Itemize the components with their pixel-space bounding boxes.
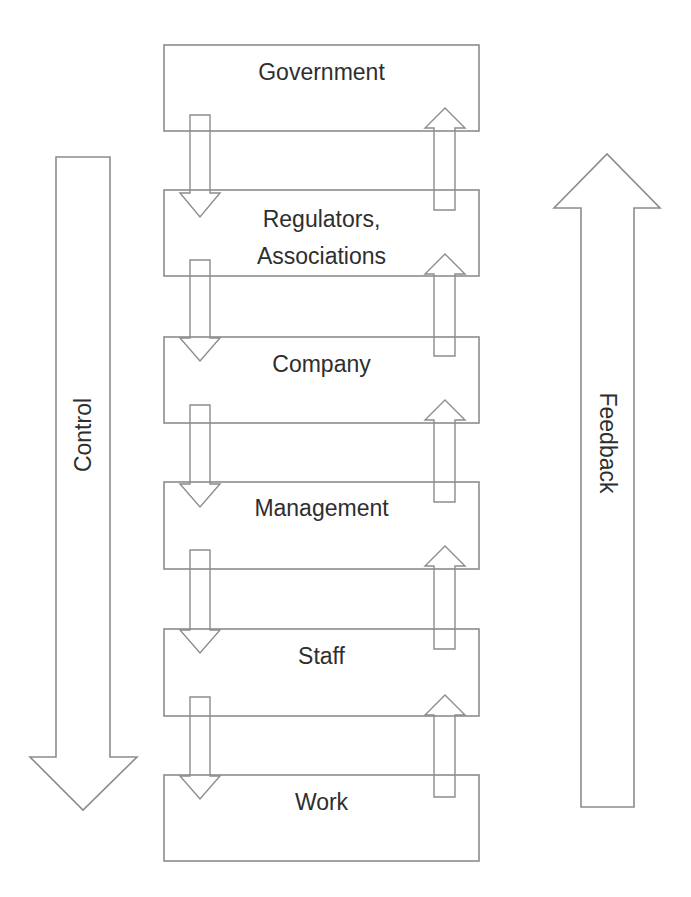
diagram-canvas	[0, 0, 691, 897]
control-arrow-icon	[30, 157, 137, 810]
label-company: Company	[164, 350, 479, 378]
label-staff: Staff	[164, 642, 479, 670]
label-government: Government	[164, 58, 479, 86]
label-regulators-associations: Regulators, Associations	[164, 201, 479, 275]
label-feedback: Feedback	[594, 392, 621, 493]
label-control: Control	[70, 398, 97, 472]
label-management: Management	[164, 494, 479, 522]
label-work: Work	[164, 788, 479, 816]
